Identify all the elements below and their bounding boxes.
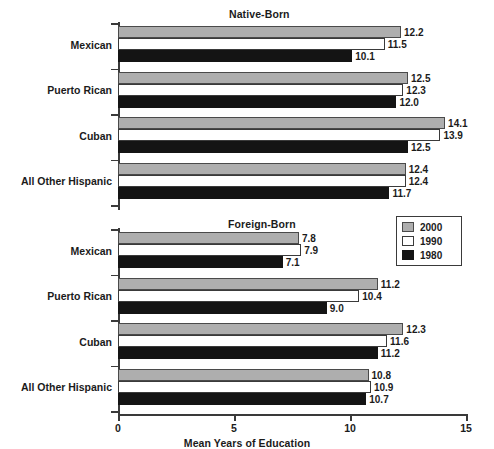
bar-2000 <box>118 117 445 129</box>
bar-value-label: 10.1 <box>355 51 374 62</box>
x-tick-mark <box>466 414 468 421</box>
legend-item-2000: 2000 <box>402 221 456 233</box>
x-tick-label: 0 <box>115 422 121 434</box>
bar-1990 <box>118 38 385 50</box>
category-label: Puerto Rican <box>47 290 112 302</box>
bar-2000 <box>118 369 369 381</box>
bar-1980 <box>118 256 283 268</box>
legend-item-1980: 1980 <box>402 249 456 261</box>
y-tick-mark <box>111 320 118 322</box>
y-tick-mark <box>111 69 118 71</box>
bar-value-label: 10.7 <box>369 393 388 404</box>
bar-value-label: 10.8 <box>372 369 391 380</box>
bar-1990 <box>118 290 359 302</box>
category-label: Puerto Rican <box>47 84 112 96</box>
category-label: Mexican <box>71 39 112 51</box>
x-axis-title: Mean Years of Education <box>0 437 494 449</box>
bar-1990 <box>118 244 301 256</box>
bar-value-label: 12.5 <box>411 142 430 153</box>
category-label: Mexican <box>71 245 112 257</box>
bar-2000 <box>118 72 408 84</box>
bar-1990 <box>118 381 371 393</box>
bar-value-label: 12.0 <box>399 96 418 107</box>
bar-value-label: 10.9 <box>374 381 393 392</box>
bar-value-label: 7.8 <box>302 233 316 244</box>
bar-value-label: 12.2 <box>404 27 423 38</box>
bar-1980 <box>118 96 396 108</box>
bar-1990 <box>118 84 403 96</box>
x-tick-label: 15 <box>460 422 472 434</box>
bar-value-label: 12.3 <box>406 84 425 95</box>
legend-swatch-1990-icon <box>402 236 414 246</box>
y-tick-mark <box>111 23 118 25</box>
bar-2000 <box>118 26 401 38</box>
category-label: Cuban <box>79 336 112 348</box>
bar-value-label: 11.5 <box>388 39 407 50</box>
y-tick-mark <box>111 275 118 277</box>
legend-label-1980: 1980 <box>420 250 442 261</box>
bar-1980 <box>118 347 378 359</box>
y-tick-mark <box>111 114 118 116</box>
bar-value-label: 13.9 <box>443 130 462 141</box>
x-tick-label: 5 <box>231 422 237 434</box>
legend-item-1990: 1990 <box>402 235 456 247</box>
y-tick-mark <box>111 205 118 207</box>
bar-1980 <box>118 302 327 314</box>
bar-1990 <box>118 129 440 141</box>
legend-label-2000: 2000 <box>420 222 442 233</box>
legend-swatch-2000-icon <box>402 222 414 232</box>
category-label: Cuban <box>79 130 112 142</box>
y-tick-mark <box>111 411 118 413</box>
bar-value-label: 14.1 <box>448 118 467 129</box>
bar-value-label: 11.2 <box>381 278 400 289</box>
x-axis-line <box>118 414 466 416</box>
bar-value-label: 12.3 <box>406 324 425 335</box>
bar-value-label: 12.4 <box>409 175 428 186</box>
chart-container: Native-Born Foreign-Born 051015 12.211.5… <box>0 0 494 449</box>
bar-value-label: 7.9 <box>304 245 318 256</box>
legend-swatch-1980-icon <box>402 250 414 260</box>
bar-value-label: 12.5 <box>411 72 430 83</box>
bar-1990 <box>118 175 406 187</box>
bar-value-label: 10.4 <box>362 290 381 301</box>
bar-1980 <box>118 141 408 153</box>
panel-title-foreign-born: Foreign-Born <box>228 218 296 230</box>
bar-value-label: 11.2 <box>381 348 400 359</box>
bar-value-label: 11.7 <box>392 187 411 198</box>
x-tick-mark <box>350 414 352 421</box>
bar-value-label: 12.4 <box>409 163 428 174</box>
y-tick-mark <box>111 366 118 368</box>
bar-1980 <box>118 393 366 405</box>
bar-1990 <box>118 335 387 347</box>
bar-1980 <box>118 187 389 199</box>
bar-2000 <box>118 278 378 290</box>
bar-value-label: 11.6 <box>390 336 409 347</box>
x-tick-mark <box>234 414 236 421</box>
bar-2000 <box>118 323 403 335</box>
bar-2000 <box>118 163 406 175</box>
y-tick-mark <box>111 229 118 231</box>
category-label: All Other Hispanic <box>21 381 112 393</box>
category-label: All Other Hispanic <box>21 175 112 187</box>
bar-value-label: 9.0 <box>330 302 344 313</box>
y-tick-mark <box>111 160 118 162</box>
bar-value-label: 7.1 <box>286 257 300 268</box>
bar-1980 <box>118 50 352 62</box>
x-tick-label: 10 <box>344 422 356 434</box>
x-tick-mark <box>118 414 120 421</box>
panel-title-native-born: Native-Born <box>229 8 290 20</box>
legend-label-1990: 1990 <box>420 236 442 247</box>
bar-2000 <box>118 232 299 244</box>
legend: 2000 1990 1980 <box>396 216 462 266</box>
